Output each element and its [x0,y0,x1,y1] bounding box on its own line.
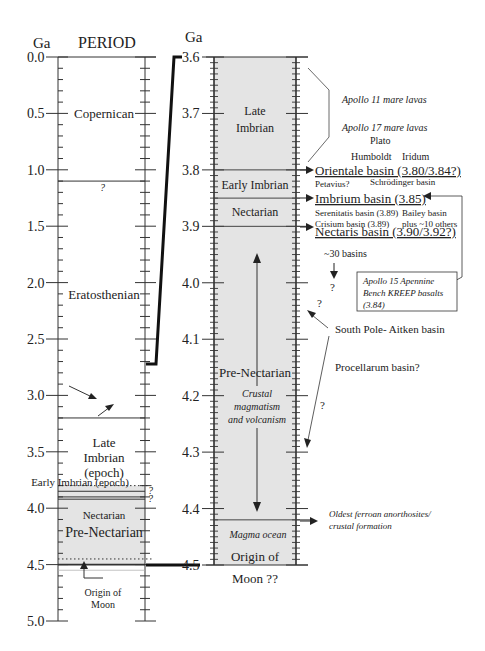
left-axis-label: 5.0 [27,614,45,629]
orientale-basin-label: Orientale basin (3.80/3.84?) [315,163,461,178]
left-axis-label: 3.5 [27,445,45,460]
ferroan-line2: crustal formation [329,521,392,531]
arrow-right-icon [306,194,314,202]
serenitatis-label: Serenitatis basin (3.89) [315,208,398,218]
period-label: Late [92,435,115,450]
left-axis-label: 0.5 [27,106,45,121]
left-axis-label: 2.5 [27,332,45,347]
left-axis-label: 2.0 [27,276,45,291]
arrow-right-icon [306,166,314,174]
right-axis-label: 3.6 [182,50,200,65]
zoom-connector [146,57,200,565]
thirty-basins-question: ? [330,281,335,293]
right-axis-label: 3.9 [182,219,200,234]
procellarum-question: ? [320,399,325,411]
period-label: Moon ?? [232,571,278,586]
right-axis-label: 3.8 [182,163,200,178]
period-label: Imbrian [236,121,274,135]
left-header: PERIOD [78,34,136,51]
right-axis-label: 4.3 [182,445,200,460]
left-axis-label: 3.0 [27,388,45,403]
lunar-timescale-diagram: ??? 0.00.51.01.52.02.53.03.54.04.55.0 Co… [0,0,485,651]
arrow-down-icon [330,271,338,279]
iridum-label: Iridum [402,151,429,162]
period-label: Eratosthenian [68,287,140,302]
left-axis-label: 1.0 [27,163,45,178]
right-axis-label: 4.4 [182,502,200,517]
plato-label: Plato [370,135,391,146]
humboldt-label: Humboldt [351,151,392,162]
petavius-label: Petavius? [315,179,350,189]
left-period-labels: CopernicanEratosthenianLateImbrian(epoch… [31,106,143,539]
apollo15-line2: Bench KREEP basalts [363,288,444,298]
arrow-right-icon [310,517,318,525]
period-label: Pre-Nectarian [219,365,292,380]
bailey-label: Bailey basin [402,208,447,218]
apollo15-line3: (3.84) [363,300,385,310]
right-period-column: 3.63.73.83.94.04.14.24.34.44.5 LateImbri… [182,29,312,586]
period-label: Early Imbrian [222,178,289,192]
period-label: Imbrian [83,450,125,465]
left-axis-label: 4.0 [27,501,45,516]
period-label: Nectarian [83,509,126,521]
origin-note-line2: Moon [91,599,115,610]
annotations: Apollo 11 mare lavas Apollo 17 mare lava… [300,68,462,531]
left-unit-label: Ga [33,35,51,51]
period-label: Pre-Nectarian [65,525,143,540]
period-label: Late [244,104,265,118]
left-axis-labels: 0.00.51.01.52.02.53.03.54.04.55.0 [27,50,45,629]
period-label: Nectarian [232,205,279,219]
apollo11-label: Apollo 11 mare lavas [341,94,427,105]
right-unit-label: Ga [185,29,203,45]
right-axis-label: 4.5 [182,558,200,573]
origin-note-line1: Origin of [85,587,123,598]
left-axis-label: 0.0 [27,50,45,65]
left-axis-label: 4.5 [27,558,45,573]
magma-ocean-label: Magma ocean [229,529,287,540]
process-note-3: and volcanism [228,414,286,425]
arrow-right-icon [306,223,314,231]
right-axis-label: 4.2 [182,389,200,404]
right-axis-labels: 3.63.73.83.94.04.14.24.34.44.5 [182,50,200,573]
apollo15-line1: Apollo 15 Apennine [362,276,434,286]
period-label: Origin of [231,549,280,564]
process-note-1: Crustal [242,388,272,399]
nectaris-basin-label: Nectaris basin (3.90/3.92?) [315,224,456,239]
arrow-down-icon [304,438,311,448]
right-axis-label: 4.0 [182,276,200,291]
period-label: Early Imbrian (epoch) [31,476,129,489]
procellarum-label: Procellarum basin? [335,361,420,373]
period-label: Copernican [74,106,134,121]
mare-lavas-bracket [308,68,329,162]
apollo17-label: Apollo 17 mare lavas [341,122,428,133]
uncertainty-mark: ? [100,182,105,193]
thirty-basins-label: ~30 basins [324,248,367,259]
schrodinger-label: Schrödinger basin [370,177,436,187]
right-axis-label: 3.7 [182,106,200,121]
uncertainty-mark: ? [148,493,153,504]
process-note-2: magmatism [234,401,280,412]
imbrium-basin-label: Imbrium basin (3.85) [315,191,426,206]
diagram-canvas: ??? 0.00.51.01.52.02.53.03.54.04.55.0 Co… [0,0,485,651]
spa-question: ? [317,297,322,309]
left-axis-label: 1.5 [27,219,45,234]
south-pole-aitken-label: South Pole- Aitken basin [335,323,445,335]
left-period-column: ??? 0.00.51.01.52.02.53.03.54.04.55.0 Co… [27,34,156,629]
ferroan-line1: Oldest ferroan anorthosites/ [329,509,432,519]
right-axis-label: 4.1 [182,332,200,347]
